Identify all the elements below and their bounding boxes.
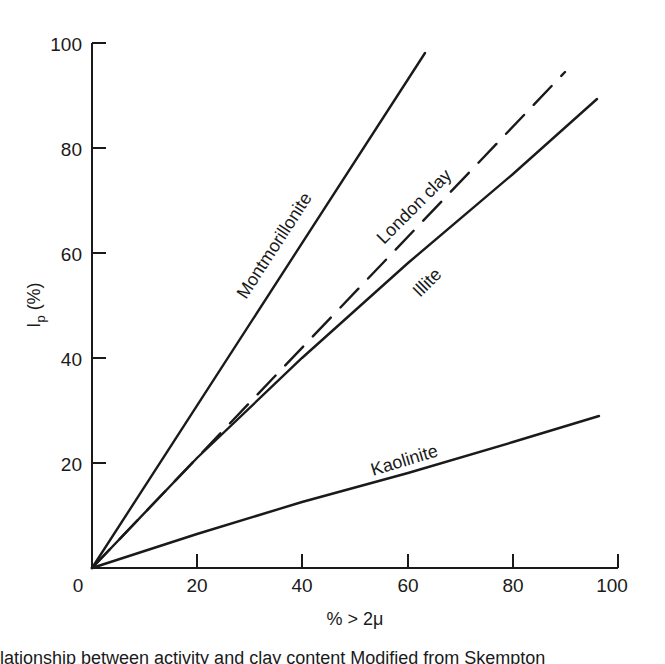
y-tick-20: 20 <box>61 454 82 475</box>
x-tick-40: 40 <box>291 575 312 596</box>
y-tick-labels: 100 80 60 40 20 <box>50 34 82 475</box>
series-lines <box>92 53 599 568</box>
x-tick-60: 60 <box>397 575 418 596</box>
x-axis-title: % > 2μ <box>327 609 384 629</box>
y-tick-60: 60 <box>61 244 82 265</box>
y-tick-40: 40 <box>61 349 82 370</box>
london-clay-label: London clay <box>373 165 456 248</box>
x-tick-labels: 0 20 40 60 80 100 <box>73 575 628 596</box>
x-tick-0: 0 <box>73 575 84 596</box>
montmorillonite-line <box>92 53 425 568</box>
y-axis-title-sub: p <box>33 315 48 322</box>
y-tick-80: 80 <box>61 139 82 160</box>
svg-text:Ip (%): Ip (%) <box>24 282 48 327</box>
x-tick-20: 20 <box>186 575 207 596</box>
y-axis <box>92 43 106 568</box>
illite-line <box>92 99 597 568</box>
y-tick-100: 100 <box>50 34 82 55</box>
x-tick-80: 80 <box>502 575 523 596</box>
plasticity-chart: 100 80 60 40 20 0 20 40 60 80 100 % > 2μ… <box>0 0 665 664</box>
kaolinite-line <box>92 416 599 568</box>
x-tick-100: 100 <box>596 575 628 596</box>
figure-caption: lationship between activity and clay con… <box>0 646 665 664</box>
illite-label: Illite <box>409 264 446 301</box>
y-axis-title: Ip (%) <box>24 282 48 327</box>
x-axis <box>92 554 618 568</box>
y-axis-title-unit: (%) <box>24 282 44 315</box>
